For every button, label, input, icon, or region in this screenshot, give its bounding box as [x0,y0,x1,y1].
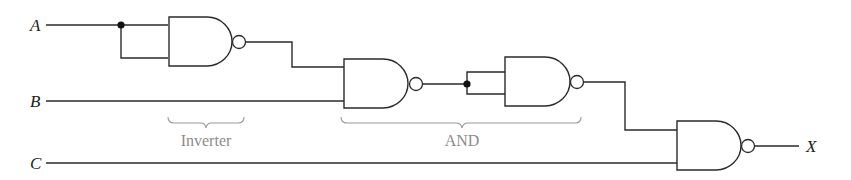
group-label-and: AND [445,132,480,149]
inversion-bubble [742,140,755,153]
input-label-b: B [30,92,41,111]
input-label-a: A [29,16,41,35]
group-label-inverter: Inverter [181,132,232,149]
wire-a [46,21,168,58]
wire-g3-to-g4 [584,82,678,130]
junction-dot-a [117,21,124,28]
nand-gate-3-inverter [505,57,584,106]
nand-gate-1-inverter [169,17,246,66]
brace-and [341,117,581,128]
output-label-x: X [805,137,817,156]
inversion-bubble [410,78,423,91]
nand-gate-4 [677,121,755,170]
junction-dot-and [463,80,470,87]
inversion-bubble [571,76,584,89]
logic-circuit-diagram: A B C X Inverte [0,0,851,180]
brace-inverter [168,117,244,128]
input-label-c: C [30,154,42,173]
nand-gate-2 [344,59,423,108]
inversion-bubble [233,36,246,49]
wire-g1-to-g2 [246,42,345,67]
wire-g2-to-g3 [423,72,506,94]
